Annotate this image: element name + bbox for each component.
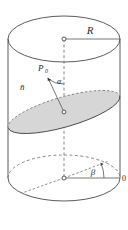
point-label: P (37, 63, 44, 73)
radius-label: R (86, 24, 94, 36)
top-center-marker (62, 37, 66, 41)
normal-label: n̄ (20, 82, 25, 92)
origin-label: 0 (122, 174, 126, 183)
cylinder-bottom-front-arc (8, 178, 120, 201)
angle-beta-arc (101, 163, 104, 178)
point-subscript-label: 0 (45, 68, 48, 74)
bottom-dashed-radius (64, 161, 109, 178)
bottom-dashed-chord (22, 178, 64, 193)
bottom-center-marker (62, 176, 66, 180)
cylinder-diagram: R P 0 n̄ α β 0 (0, 0, 128, 230)
plane-center-marker (62, 110, 66, 114)
cylinder-figure-canvas: R P 0 n̄ α β 0 (0, 0, 128, 230)
angle-alpha-label: α (57, 77, 62, 86)
angle-beta-label: β (90, 167, 96, 177)
